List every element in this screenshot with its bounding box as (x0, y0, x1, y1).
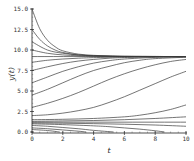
y-tick-label: 7.5 (17, 67, 28, 74)
solution-curve (32, 130, 60, 132)
solution-curves (32, 9, 186, 132)
solution-curve (32, 57, 186, 83)
solution-curve (32, 9, 186, 57)
solution-curve (32, 57, 186, 71)
x-tick-label: 4 (92, 135, 96, 142)
solution-curve (32, 50, 186, 57)
x-tick-label: 6 (123, 135, 127, 142)
x-tick-label: 0 (30, 135, 34, 142)
y-ticks: 0.02.55.07.510.012.515.0 (14, 5, 34, 135)
y-tick-label: 0.0 (17, 128, 28, 135)
solution-curve (32, 71, 186, 115)
y-tick-label: 2.5 (17, 108, 28, 115)
x-axis-label: t (107, 146, 111, 155)
y-axis-label: y(t) (7, 67, 16, 82)
solution-curve (32, 105, 186, 120)
y-tick-label: 5.0 (17, 87, 28, 94)
x-tick-label: 8 (153, 135, 157, 142)
y-tick-label: 10.0 (14, 46, 29, 53)
x-tick-label: 10 (182, 135, 190, 142)
y-tick-label: 12.5 (14, 26, 29, 33)
solution-curve (32, 30, 186, 57)
y-tick-label: 15.0 (14, 5, 29, 12)
chart: 0.02.55.07.510.012.515.0 0246810 y(t) t (0, 0, 194, 161)
x-tick-label: 2 (61, 135, 65, 142)
